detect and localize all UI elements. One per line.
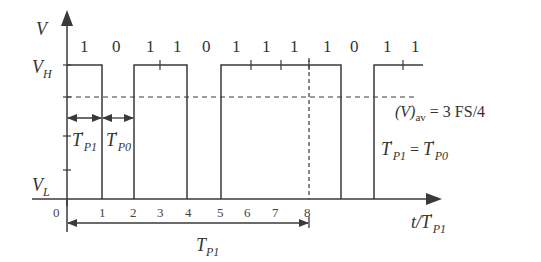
bit-label: 1	[262, 38, 271, 55]
x-tick: 4	[185, 206, 192, 219]
x-tick: 2	[130, 206, 137, 219]
x-tick: 7	[272, 206, 279, 219]
bit-label: 1	[232, 38, 241, 55]
x-axis	[32, 193, 442, 205]
average-annotation: (V)av = 3 FS/4	[395, 104, 485, 120]
v-high-label: VH	[32, 58, 52, 76]
x-axis-arrow-icon	[426, 193, 442, 205]
average-sub: av	[415, 111, 425, 123]
bit-label: 1	[323, 38, 332, 55]
v-low-main: V	[32, 175, 43, 195]
eq-operator: =	[406, 141, 423, 158]
v-low-sub: L	[43, 185, 50, 199]
average-value: = 3 FS/4	[426, 103, 485, 120]
v-high-main: V	[32, 57, 43, 77]
x-tick: 8	[304, 206, 311, 219]
v-high-sub: H	[43, 67, 52, 81]
eq-rhs-sub: P0	[435, 149, 448, 163]
tp1-period-main: T	[196, 235, 206, 255]
tp0-prime-label: T′P0	[106, 131, 131, 149]
bit-boundary-ticks	[160, 60, 403, 70]
tp1-period-sub: P1	[206, 245, 219, 259]
bit-label: 1	[173, 38, 182, 55]
x-axis-label: t/T′P1	[411, 213, 446, 231]
y-axis	[61, 10, 73, 206]
tp1-prime-sub: P1	[84, 140, 97, 154]
bit-label: 1	[290, 38, 299, 55]
bit-label: 1	[383, 38, 392, 55]
bit-label: 1	[146, 38, 155, 55]
bit-label: 1	[411, 38, 420, 55]
tp1-prime-label: T′P1	[72, 131, 97, 149]
bit-label: 1	[80, 38, 89, 55]
x-tick: 0	[53, 206, 60, 219]
tp0-prime-sub: P0	[118, 140, 131, 154]
eq-lhs-sub: P1	[393, 149, 406, 163]
x-tick: 3	[157, 206, 164, 219]
x-tick: 5	[217, 206, 224, 219]
x-axis-label-sub: P1	[433, 222, 446, 236]
x-axis-label-main: t/T	[411, 212, 431, 232]
equality-annotation: T′P1 = T′P0	[381, 140, 448, 158]
bit-label: 0	[112, 38, 121, 55]
x-tick: 6	[244, 206, 251, 219]
average-prefix: (V)	[395, 103, 415, 120]
x-tick: 1	[99, 206, 106, 219]
v-low-label: VL	[32, 176, 50, 194]
bit-label: 0	[202, 38, 211, 55]
y-axis-arrow-icon	[61, 10, 73, 26]
bit-label: 0	[350, 38, 359, 55]
tp1-period-label: TP1	[196, 236, 219, 254]
y-axis-label: V	[36, 20, 47, 38]
